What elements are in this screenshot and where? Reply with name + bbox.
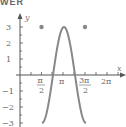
endpoint-dot-right	[83, 25, 87, 29]
y-tick-label: 2	[6, 39, 11, 48]
x-tick-pi-over-2: π 2	[37, 76, 45, 95]
svg-text:2π: 2π	[101, 77, 111, 86]
cosine-graph: y x 3 2 1 −1 −2 −3 π 2 π 3π 2 2π	[0, 0, 126, 127]
y-axis-label: y	[24, 13, 30, 22]
x-axis-arrow-icon	[120, 73, 126, 78]
y-tick-label: −1	[2, 87, 14, 96]
svg-text:2: 2	[39, 86, 44, 95]
svg-text:3π: 3π	[79, 76, 89, 85]
y-tick-label: −3	[2, 119, 14, 127]
svg-text:π: π	[59, 77, 64, 86]
svg-text:2: 2	[83, 86, 88, 95]
y-tick-label: −2	[2, 103, 14, 112]
y-tick-label: 3	[6, 23, 11, 32]
x-tick-pi: π	[59, 77, 64, 86]
endpoint-dot-left	[39, 25, 43, 29]
y-axis-arrow-icon	[18, 13, 23, 19]
svg-text:π: π	[38, 76, 43, 85]
y-tick-label: 1	[6, 55, 11, 64]
x-axis-label: x	[117, 64, 122, 73]
x-tick-3pi-over-2: 3π 2	[79, 76, 91, 95]
x-tick-2pi: 2π	[101, 77, 111, 86]
